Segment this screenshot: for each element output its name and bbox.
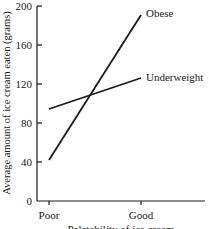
y-tick-labels: 200 160 120 80 40 0 (16, 0, 33, 207)
y-tick-label: 160 (16, 39, 33, 51)
y-tick-label: 80 (21, 117, 33, 129)
x-axis-title: Palatability of ice cream (67, 223, 175, 229)
x-tick-label-good: Good (129, 209, 154, 221)
y-ticks (37, 6, 42, 162)
y-tick-label: 200 (16, 0, 33, 12)
y-tick-label: 0 (27, 195, 33, 207)
x-ticks (49, 201, 141, 205)
y-tick-label: 120 (16, 78, 33, 90)
series-label-underweight: Underweight (146, 71, 203, 83)
series-line-underweight (49, 78, 141, 109)
series-label-obese: Obese (146, 7, 174, 19)
x-tick-label-poor: Poor (39, 209, 60, 221)
y-tick-label: 40 (21, 156, 33, 168)
y-axis-title: Average amount of ice cream eaten (grams… (1, 11, 13, 195)
series-line-obese (49, 15, 141, 160)
line-chart: 200 160 120 80 40 0 Poor Good Palatabili… (0, 0, 209, 229)
